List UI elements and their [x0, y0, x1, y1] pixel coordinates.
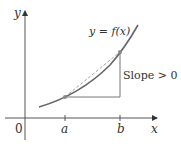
function-label: y = f(x) — [88, 25, 130, 38]
slope-label: Slope > 0 — [123, 69, 177, 82]
origin-label: 0 — [15, 122, 23, 136]
point-b-label: b — [117, 122, 125, 136]
point-a-marker — [63, 95, 67, 99]
diagram-canvas: y x 0 a b y = f(x) Slope > 0 — [0, 0, 181, 150]
y-axis-label: y — [13, 6, 21, 20]
secant-line — [65, 52, 120, 97]
x-axis-label: x — [151, 122, 158, 136]
point-a-label: a — [61, 122, 68, 136]
point-b-marker — [118, 50, 122, 54]
